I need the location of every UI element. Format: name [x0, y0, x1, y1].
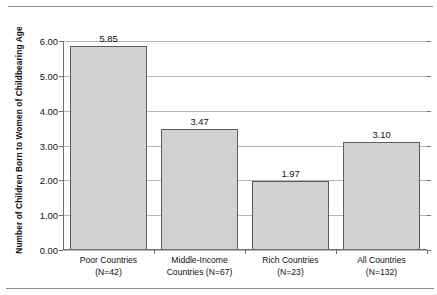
bar[interactable] — [70, 46, 146, 250]
bar-slot: 1.97 — [245, 41, 336, 250]
category-label-line-2: (N=132) — [336, 267, 427, 279]
bar-value-label: 1.97 — [245, 168, 336, 179]
x-axis-category-label: All Countries(N=132) — [336, 255, 427, 278]
y-axis-tick-mark — [59, 250, 63, 251]
category-label-line-2: (N=23) — [245, 267, 336, 279]
x-axis-tick-mark — [154, 250, 155, 254]
bar-chart-figure: Number of Children Born to Women of Chil… — [0, 0, 437, 295]
y-axis-tick-label: 6.00 — [40, 36, 58, 47]
x-axis-tick-mark — [427, 250, 428, 254]
x-axis-category-label: Rich Countries(N=23) — [245, 255, 336, 278]
x-axis-tick-mark — [245, 250, 246, 254]
y-axis-tick-mark-right — [427, 111, 431, 112]
x-axis-line — [63, 249, 427, 250]
category-label-line-1: All Countries — [336, 255, 427, 267]
y-axis-title: Number of Children Born to Women of Chil… — [14, 15, 24, 265]
bar-slot: 3.10 — [336, 41, 427, 250]
y-axis-tick-label: 3.00 — [40, 140, 58, 151]
category-label-line-2: Countries (N=67) — [154, 267, 245, 279]
x-axis-category-label: Poor Countries(N=42) — [63, 255, 154, 278]
category-label-line-1: Poor Countries — [63, 255, 154, 267]
bar-value-label: 3.10 — [336, 129, 427, 140]
y-axis-tick-label: 4.00 — [40, 105, 58, 116]
bar[interactable] — [343, 142, 419, 250]
bar-value-label: 3.47 — [154, 116, 245, 127]
x-axis-tick-mark — [336, 250, 337, 254]
x-axis-category-label: Middle-IncomeCountries (N=67) — [154, 255, 245, 278]
page-rule-bottom — [6, 288, 434, 289]
plot-area: 6.005.004.003.002.001.000.00 5.853.471.9… — [63, 41, 427, 250]
page-rule-top — [8, 6, 433, 7]
bars-layer: 5.853.471.973.10 — [63, 41, 427, 250]
y-axis-tick-mark-right — [427, 76, 431, 77]
x-axis-category-labels: Poor Countries(N=42)Middle-IncomeCountri… — [63, 255, 427, 287]
y-axis-tick-label: 1.00 — [40, 210, 58, 221]
bar-slot: 3.47 — [154, 41, 245, 250]
bar-value-label: 5.85 — [63, 33, 154, 44]
category-label-line-1: Middle-Income — [154, 255, 245, 267]
y-axis-tick-mark-right — [427, 180, 431, 181]
bar-slot: 5.85 — [63, 41, 154, 250]
bar[interactable] — [161, 129, 237, 250]
y-axis-tick-mark-right — [427, 41, 431, 42]
y-axis-tick-label: 5.00 — [40, 70, 58, 81]
y-axis-tick-label: 2.00 — [40, 175, 58, 186]
y-axis-line — [63, 41, 64, 250]
category-label-line-1: Rich Countries — [245, 255, 336, 267]
bar[interactable] — [252, 181, 328, 250]
y-axis-tick-label: 0.00 — [40, 245, 58, 256]
category-label-line-2: (N=42) — [63, 267, 154, 279]
y-axis-tick-mark-right — [427, 215, 431, 216]
y-axis-tick-mark-right — [427, 146, 431, 147]
